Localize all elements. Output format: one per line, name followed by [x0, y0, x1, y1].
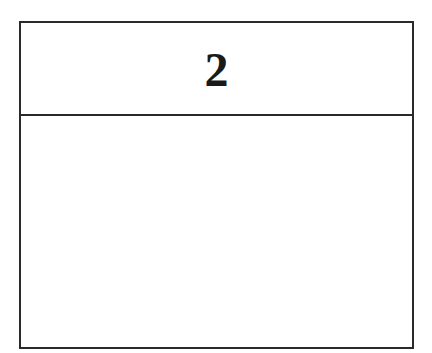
box-body-empty	[21, 116, 412, 347]
numbered-box: 2	[19, 21, 414, 349]
box-header: 2	[21, 23, 412, 116]
box-number-label: 2	[205, 46, 229, 94]
